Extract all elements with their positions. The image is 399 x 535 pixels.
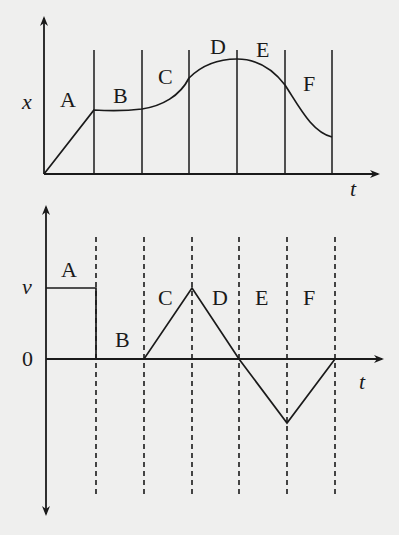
- t-axis-label: t: [359, 369, 366, 394]
- segment-label-b: B: [113, 83, 128, 108]
- segment-label-d: D: [212, 285, 228, 310]
- position-time-graph: x t A B C D E F: [21, 18, 378, 201]
- zero-label: 0: [22, 346, 33, 371]
- v-axis-label: v: [22, 274, 32, 299]
- segment-label-b: B: [115, 327, 130, 352]
- segment-dividers-dashed: [96, 237, 335, 498]
- figure-canvas: x t A B C D E F v 0 t: [0, 0, 399, 535]
- velocity-time-graph: v 0 t A B C D E F: [22, 207, 382, 514]
- kinematics-figure: x t A B C D E F v 0 t: [0, 0, 399, 535]
- segment-dividers: [94, 50, 332, 174]
- segment-label-f: F: [303, 71, 315, 96]
- velocity-curve: [46, 288, 335, 423]
- segment-label-a: A: [60, 87, 76, 112]
- segment-label-c: C: [158, 64, 173, 89]
- segment-label-a: A: [61, 257, 77, 282]
- t-axis-label: t: [350, 176, 357, 201]
- position-curve: [44, 59, 332, 174]
- segment-label-e: E: [255, 285, 268, 310]
- x-axis-label: x: [21, 89, 32, 114]
- segment-label-f: F: [303, 285, 315, 310]
- segment-label-d: D: [210, 34, 226, 59]
- segment-label-e: E: [256, 37, 269, 62]
- segment-label-c: C: [158, 285, 173, 310]
